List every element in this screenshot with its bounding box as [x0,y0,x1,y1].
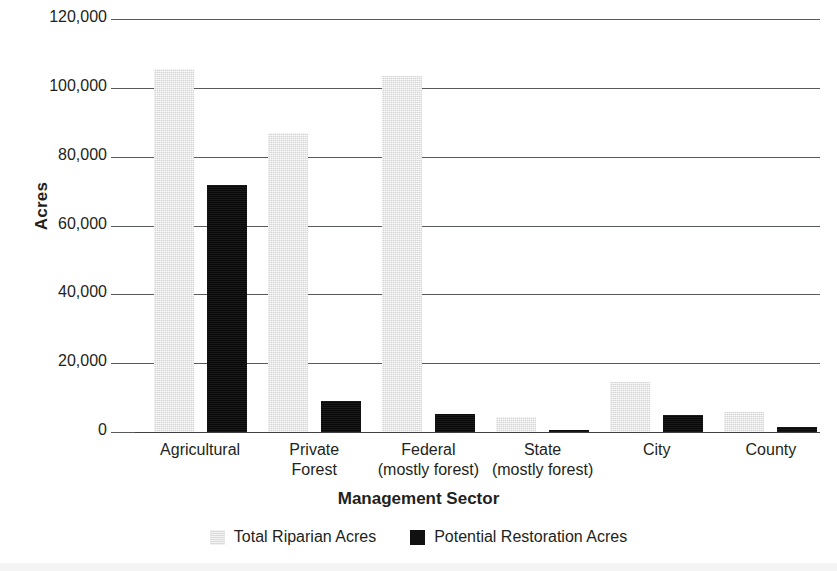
y-tick-mark-80000 [111,157,135,158]
page-edge-strip [0,563,837,571]
y-tick-mark-60000 [111,226,135,227]
chart-legend: Total Riparian AcresPotential Restoratio… [0,528,837,546]
y-tick-mark-120000 [111,19,135,20]
legend-label: Potential Restoration Acres [434,528,627,546]
legend-swatch-light-gray [210,530,225,545]
bar [321,401,361,432]
y-tick-label: 120,000 [21,8,107,26]
y-tick-label: 40,000 [21,283,107,301]
y-tick-mark-0 [111,432,135,433]
y-tick-mark-20000 [111,363,135,364]
bar [382,76,422,432]
y-tick-label: 0 [21,421,107,439]
bar-group [268,19,361,432]
y-tick-label: 20,000 [21,352,107,370]
y-tick-mark-40000 [111,294,135,295]
bar-group [154,19,247,432]
legend-item: Potential Restoration Acres [410,528,627,546]
legend-label: Total Riparian Acres [234,528,376,546]
bar [268,133,308,432]
bar-group [382,19,475,432]
y-tick-mark-100000 [111,88,135,89]
bar-group [724,19,817,432]
bar-group [496,19,589,432]
bar [610,382,650,432]
gridline-0 [135,432,820,433]
bar [777,427,817,433]
x-tick-label: County [681,440,837,460]
bar [435,414,475,432]
y-tick-label: 60,000 [21,215,107,233]
bar [154,69,194,432]
bar-group [610,19,703,432]
bar [663,415,703,432]
legend-swatch-black [410,530,425,545]
bar [549,430,589,432]
x-tick-label-line1: County [681,440,837,460]
bar-chart-figure: Acres 020,00040,00060,00080,000100,00012… [0,0,837,571]
legend-item: Total Riparian Acres [210,528,376,546]
x-tick-label-line2: (mostly forest) [453,460,633,480]
x-axis-title: Management Sector [0,489,837,509]
plot-area [135,19,820,432]
y-tick-label: 80,000 [21,146,107,164]
bar [207,185,247,432]
y-axis-title: Acres [32,146,52,266]
y-tick-label: 100,000 [21,77,107,95]
bar [496,417,536,432]
bar [724,412,764,432]
